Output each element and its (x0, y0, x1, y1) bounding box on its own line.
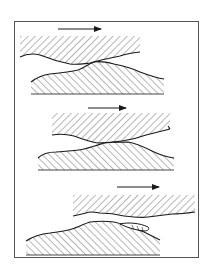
panel-1 (20, 29, 164, 94)
upper-body (52, 113, 170, 143)
panel-3 (26, 187, 195, 255)
upper-body (20, 36, 140, 64)
lower-body (31, 62, 164, 94)
lower-body (38, 142, 174, 170)
sliding-surfaces-diagram (0, 0, 215, 277)
panel-2 (38, 108, 174, 170)
